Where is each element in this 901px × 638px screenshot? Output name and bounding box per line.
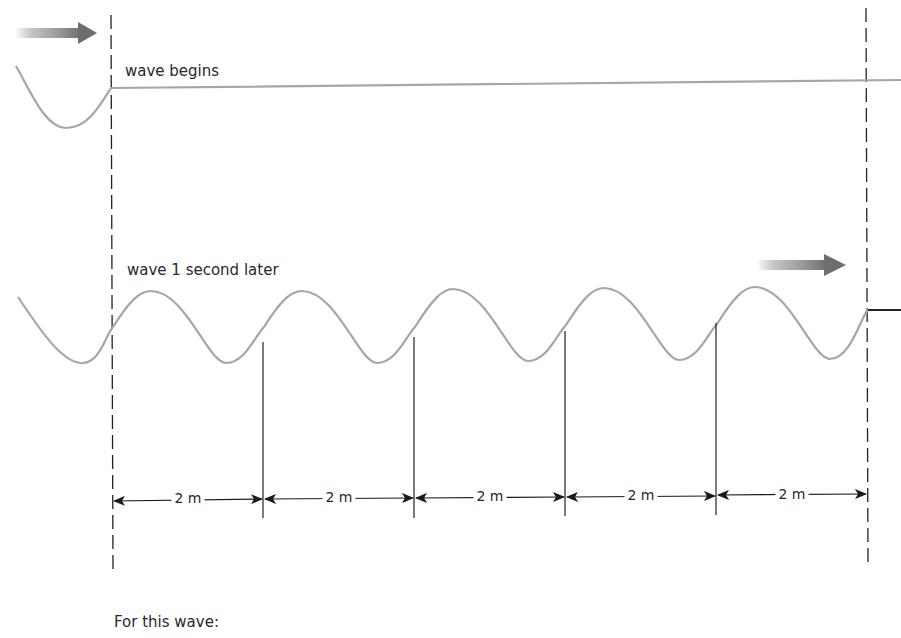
wave-later-label: wave 1 second later: [127, 261, 279, 279]
wavelength-label: 2 m: [323, 489, 356, 505]
footer-text: For this wave:: [114, 613, 219, 631]
wavelength-label: 2 m: [172, 490, 205, 506]
start-dashed-line: [111, 15, 113, 570]
wave-begins-label: wave begins: [125, 62, 219, 80]
wavelength-label: 2 m: [474, 488, 507, 504]
wave-diagram: [0, 0, 901, 638]
right-arrow-icon: [757, 254, 846, 276]
wavelength-label: 2 m: [776, 486, 809, 502]
wave-later-curve: [18, 287, 868, 363]
end-dashed-line: [866, 8, 868, 565]
wavelength-label: 2 m: [625, 487, 658, 503]
right-arrow-icon: [15, 22, 97, 44]
